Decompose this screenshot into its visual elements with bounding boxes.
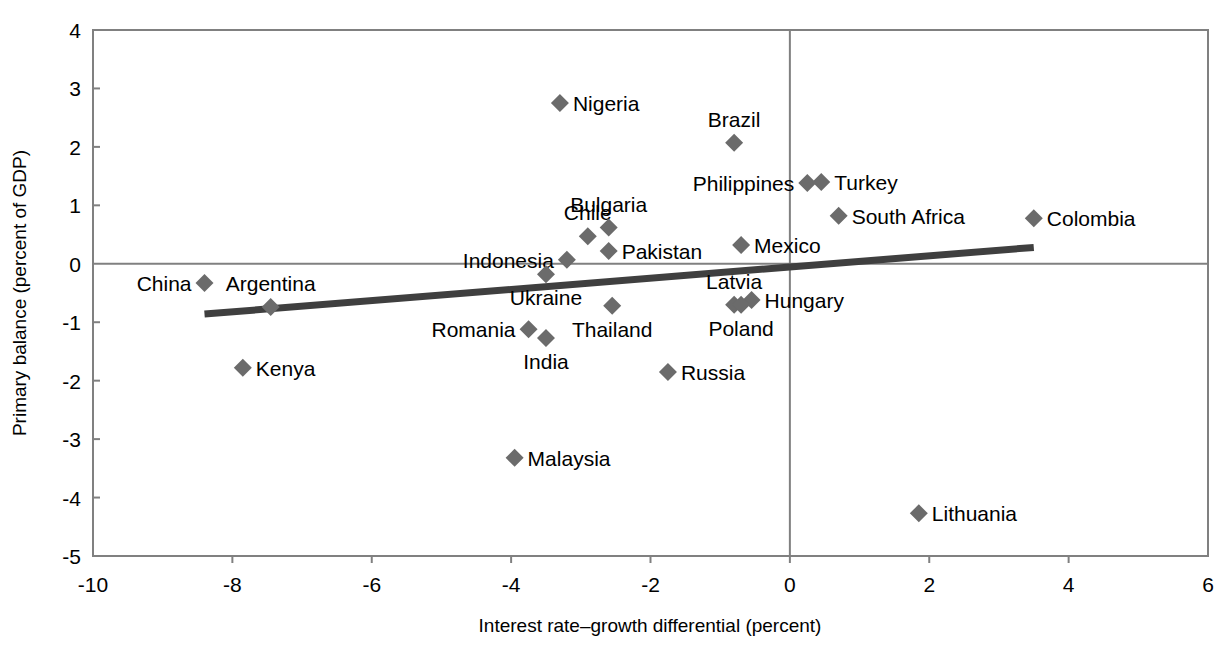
diamond-marker <box>558 251 576 269</box>
diamond-marker <box>659 363 677 381</box>
y-tick-label: -2 <box>62 370 81 393</box>
diamond-marker <box>725 134 743 152</box>
y-tick-label: 3 <box>69 77 81 100</box>
x-tick-label: -8 <box>223 573 242 596</box>
x-tick-label: 6 <box>1202 573 1214 596</box>
diamond-marker <box>830 207 848 225</box>
diamond-marker <box>506 449 524 467</box>
data-point[interactable]: Indonesia <box>463 249 576 272</box>
data-point[interactable]: Pakistan <box>600 240 703 263</box>
y-tick-label: 1 <box>69 194 81 217</box>
data-point-label: Colombia <box>1047 207 1136 230</box>
data-point[interactable]: Russia <box>659 361 746 384</box>
chart-figure: -10-8-6-4-20246 43210-1-2-3-4-5 NigeriaB… <box>0 0 1230 650</box>
data-point-label: Hungary <box>765 289 845 312</box>
y-tick-label: -5 <box>62 545 81 568</box>
data-point-label: Malaysia <box>528 447 611 470</box>
diamond-marker <box>234 359 252 377</box>
data-point-label: Mexico <box>754 234 821 257</box>
data-point-label: China <box>137 272 192 295</box>
data-point-label: Russia <box>681 361 746 384</box>
diamond-marker <box>910 504 928 522</box>
data-point[interactable]: China <box>137 272 214 295</box>
data-point[interactable]: Mexico <box>732 234 821 257</box>
data-point[interactable]: Nigeria <box>551 92 640 115</box>
diamond-marker <box>537 329 555 347</box>
data-point[interactable]: Thailand <box>572 297 653 341</box>
y-tick-label: 0 <box>69 253 81 276</box>
x-axis-title: Interest rate–growth differential (perce… <box>479 615 822 636</box>
diamond-marker <box>262 298 280 316</box>
y-tick-label: -3 <box>62 428 81 451</box>
x-tick-label: 4 <box>1063 573 1075 596</box>
y-tick-label: 2 <box>69 136 81 159</box>
diamond-marker <box>551 94 569 112</box>
data-point[interactable]: Lithuania <box>910 502 1018 525</box>
y-tick-label: 4 <box>69 19 81 42</box>
diamond-marker <box>520 320 538 338</box>
x-axis-ticks: -10-8-6-4-20246 <box>78 556 1214 596</box>
data-point-label: Poland <box>708 317 773 340</box>
data-point[interactable]: Bulgaria <box>570 193 647 237</box>
data-point[interactable]: Turkey <box>812 171 898 194</box>
diamond-marker <box>603 297 621 315</box>
diamond-marker <box>579 227 597 245</box>
data-point[interactable]: Malaysia <box>506 447 611 470</box>
data-point-label: Pakistan <box>622 240 703 263</box>
x-tick-label: -6 <box>362 573 381 596</box>
diamond-marker <box>732 236 750 254</box>
x-tick-label: -10 <box>78 573 108 596</box>
data-point[interactable]: Latvia <box>706 270 762 314</box>
data-point-label: Brazil <box>708 108 761 131</box>
data-point-label: Nigeria <box>573 92 640 115</box>
x-tick-label: -4 <box>502 573 521 596</box>
diamond-marker <box>812 173 830 191</box>
y-axis-ticks: 43210-1-2-3-4-5 <box>62 19 100 568</box>
data-point-label: Ukraine <box>510 286 582 309</box>
data-point-label: Argentina <box>226 272 316 295</box>
data-point-label: Kenya <box>256 357 316 380</box>
data-point-label: South Africa <box>852 205 966 228</box>
data-point-label: Lithuania <box>932 502 1018 525</box>
data-point[interactable]: Philippines <box>693 172 817 195</box>
data-point-label: Thailand <box>572 318 653 341</box>
data-point-label: Bulgaria <box>570 193 647 216</box>
data-point[interactable]: Romania <box>432 318 538 341</box>
data-point-label: Turkey <box>834 171 898 194</box>
data-point-label: India <box>523 350 569 373</box>
diamond-marker <box>196 274 214 292</box>
data-point-label: Latvia <box>706 270 762 293</box>
data-point-label: Romania <box>432 318 516 341</box>
x-tick-label: 0 <box>784 573 796 596</box>
data-point-label: Indonesia <box>463 249 554 272</box>
diamond-marker <box>600 242 618 260</box>
x-tick-label: 2 <box>923 573 935 596</box>
data-point[interactable]: South Africa <box>830 205 966 228</box>
data-point-label: Philippines <box>693 172 795 195</box>
data-point[interactable]: Colombia <box>1025 207 1136 230</box>
scatter-plot: -10-8-6-4-20246 43210-1-2-3-4-5 NigeriaB… <box>0 0 1230 650</box>
data-point[interactable]: Ukraine <box>510 265 582 309</box>
y-tick-label: -4 <box>62 487 81 510</box>
diamond-marker <box>1025 209 1043 227</box>
data-point[interactable]: Kenya <box>234 357 316 380</box>
y-tick-label: -1 <box>62 311 81 334</box>
data-point[interactable]: Brazil <box>708 108 761 152</box>
y-axis-title: Primary balance (percent of GDP) <box>9 150 30 436</box>
x-tick-label: -2 <box>641 573 660 596</box>
